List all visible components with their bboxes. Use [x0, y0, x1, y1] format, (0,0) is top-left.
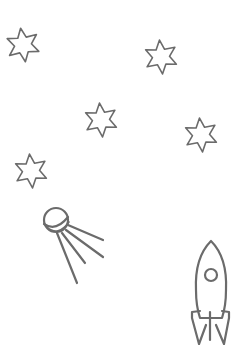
satellite-antenna	[68, 225, 103, 240]
satellite-antennas	[57, 225, 103, 283]
star-3-icon	[86, 103, 117, 137]
rocket-window	[205, 269, 217, 281]
rocket-body	[196, 241, 226, 318]
satellite-band	[44, 217, 68, 227]
stars-group	[7, 28, 216, 188]
star-1-icon	[7, 28, 39, 62]
star-2-icon	[146, 40, 177, 74]
satellite-antenna	[62, 233, 85, 263]
space-doodle-canvas	[0, 0, 243, 361]
star-5-icon	[16, 154, 47, 188]
star-4-icon	[186, 118, 217, 152]
satellite-antenna	[66, 230, 103, 257]
rocket-icon	[192, 241, 229, 344]
satellite-icon	[44, 208, 103, 283]
